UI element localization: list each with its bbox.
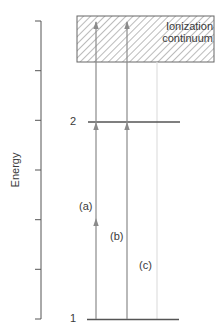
continuum-label-line2: continuum: [162, 32, 213, 44]
level-2-label: 2: [70, 116, 76, 127]
arrowhead-icon: [93, 122, 98, 130]
transition-c-label: (c): [139, 260, 152, 271]
arrowhead-icon: [93, 218, 98, 226]
continuum-label: Ionization continuum: [162, 20, 213, 44]
energy-diagram: [0, 0, 223, 332]
energy-axis-label: Energy: [9, 153, 21, 188]
continuum-label-line1: Ionization: [162, 20, 213, 32]
energy-axis: [35, 21, 41, 319]
transition-b-label: (b): [110, 231, 123, 242]
arrowhead-icon: [124, 122, 129, 130]
transition-b-arrow: [124, 21, 129, 319]
transition-a-arrow: [93, 21, 98, 319]
level-1-label: 1: [70, 313, 76, 324]
transition-a-label: (a): [79, 201, 92, 212]
